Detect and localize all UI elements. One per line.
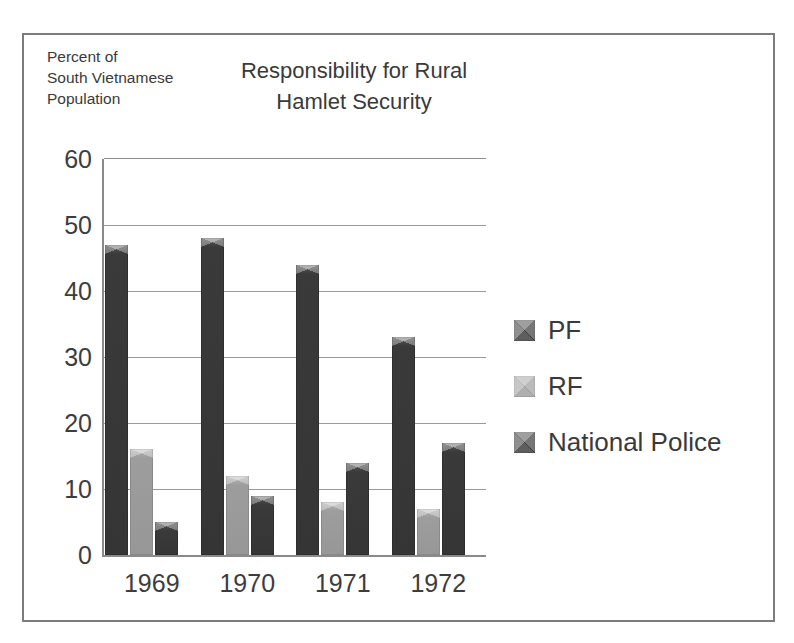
bar-national-police-1969[interactable]	[155, 522, 178, 555]
bar-pf-1971[interactable]	[296, 265, 319, 555]
bar-group-1970: 1970	[200, 159, 296, 555]
y-axis-title: Percent of South Vietnamese Population	[47, 46, 207, 109]
bar-rf-1972[interactable]	[417, 509, 440, 555]
bar-pf-1970[interactable]	[201, 238, 224, 555]
legend-swatch-icon	[514, 376, 535, 397]
legend-label: RF	[548, 372, 583, 400]
plot-area: 0102030405060 1969197019711972	[102, 159, 486, 557]
x-axis-tick-label-1969: 1969	[104, 570, 200, 596]
y-axis-tick-label: 30	[64, 345, 92, 370]
x-axis-tick-label-1972: 1972	[391, 570, 487, 596]
bar-rf-1969[interactable]	[130, 449, 153, 555]
bar-group-1969: 1969	[104, 159, 200, 555]
x-axis-tick-label-1970: 1970	[200, 570, 296, 596]
chart-legend: PFRFNational Police	[514, 302, 769, 470]
y-axis-tick-label: 10	[64, 477, 92, 502]
legend-swatch-icon	[514, 320, 535, 341]
y-axis-tick-label: 40	[64, 279, 92, 304]
bar-national-police-1970[interactable]	[251, 496, 274, 555]
legend-label: National Police	[548, 428, 721, 456]
legend-item-national-police[interactable]: National Police	[514, 414, 769, 470]
y-axis-tick-label: 60	[64, 147, 92, 172]
legend-label: PF	[548, 316, 581, 344]
legend-item-pf[interactable]: PF	[514, 302, 769, 358]
bar-national-police-1972[interactable]	[442, 443, 465, 555]
bar-group-1972: 1972	[391, 159, 487, 555]
bar-rf-1970[interactable]	[226, 476, 249, 555]
y-axis-tick-label: 0	[78, 543, 92, 568]
chart-title: Responsibility for Rural Hamlet Security	[204, 55, 504, 117]
legend-swatch-icon	[514, 432, 535, 453]
bar-national-police-1971[interactable]	[346, 463, 369, 555]
y-axis-tick-label: 20	[64, 411, 92, 436]
legend-item-rf[interactable]: RF	[514, 358, 769, 414]
bar-pf-1972[interactable]	[392, 337, 415, 555]
bar-rf-1971[interactable]	[321, 502, 344, 555]
figure-frame: Percent of South Vietnamese Population R…	[22, 33, 775, 622]
bar-group-1971: 1971	[295, 159, 391, 555]
x-axis-tick-label-1971: 1971	[295, 570, 391, 596]
y-axis-tick-label: 50	[64, 213, 92, 238]
bar-pf-1969[interactable]	[105, 245, 128, 555]
